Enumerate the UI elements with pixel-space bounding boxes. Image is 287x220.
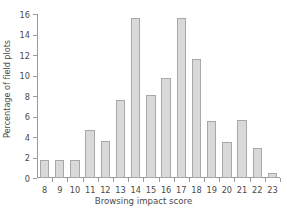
bar: [85, 130, 94, 178]
y-axis-tick-label: 10: [20, 71, 30, 81]
bar: [237, 120, 246, 178]
y-axis-label-text: Percentage of field plots: [2, 40, 12, 138]
y-axis-tick-label: 0: [25, 174, 30, 184]
bar: [222, 142, 231, 178]
x-axis-tick: [52, 178, 53, 182]
x-axis-tick-label: 12: [100, 185, 110, 195]
x-axis-label: Browsing impact score: [0, 196, 287, 206]
x-axis-tick-label: 9: [57, 185, 62, 195]
x-axis-tick-label: 14: [131, 185, 141, 195]
x-axis-tick-label: 21: [237, 185, 247, 195]
y-axis-tick: 8: [33, 96, 37, 97]
x-axis-tick: [113, 178, 114, 182]
y-axis-tick-label: 8: [25, 92, 30, 102]
y-axis-tick-label: 16: [20, 10, 30, 20]
y-axis-tick-label: 2: [25, 153, 30, 163]
y-axis-tick: 16: [33, 14, 37, 15]
x-axis-tick-label: 16: [161, 185, 171, 195]
y-axis-tick: 10: [33, 76, 37, 77]
bar: [131, 18, 140, 178]
y-axis-tick-label: 14: [20, 30, 30, 40]
x-axis-tick: [67, 178, 68, 182]
y-axis-tick: 4: [33, 137, 37, 138]
x-axis-tick: [280, 178, 281, 182]
x-axis-tick-label: 11: [85, 185, 95, 195]
x-axis-tick-label: 19: [206, 185, 216, 195]
plot-area: 0246810121416 89101112131415161718192021…: [37, 14, 280, 178]
bar: [40, 160, 49, 178]
x-axis-tick: [234, 178, 235, 182]
y-axis-tick: 2: [33, 158, 37, 159]
x-axis-tick-label: 15: [146, 185, 156, 195]
bar: [116, 100, 125, 178]
x-axis-tick-label: 22: [252, 185, 262, 195]
bar: [253, 148, 262, 178]
x-axis-tick: [159, 178, 160, 182]
x-axis-tick: [189, 178, 190, 182]
x-axis-tick-label: 13: [115, 185, 125, 195]
x-axis-tick: [250, 178, 251, 182]
bar: [146, 95, 155, 178]
y-axis-tick: 14: [33, 35, 37, 36]
chart-figure: Percentage of field plots 0246810121416 …: [0, 0, 287, 220]
x-axis-tick: [174, 178, 175, 182]
bar: [207, 121, 216, 178]
x-axis-tick: [219, 178, 220, 182]
bar: [55, 160, 64, 178]
y-axis-label: Percentage of field plots: [0, 0, 14, 178]
x-axis-tick-label: 18: [191, 185, 201, 195]
x-axis-tick: [128, 178, 129, 182]
bar: [177, 18, 186, 178]
x-axis-tick-label: 8: [42, 185, 47, 195]
y-axis-tick-label: 6: [25, 112, 30, 122]
x-axis-tick-label: 10: [70, 185, 80, 195]
x-axis-tick: [98, 178, 99, 182]
bar: [192, 59, 201, 178]
y-axis-tick: 6: [33, 117, 37, 118]
x-axis-tick-label: 23: [267, 185, 277, 195]
y-axis-tick: 12: [33, 55, 37, 56]
x-axis-tick: [204, 178, 205, 182]
bar: [161, 78, 170, 178]
x-axis-tick-label: 17: [176, 185, 186, 195]
y-axis-line: [37, 14, 38, 178]
x-axis-tick-label: 20: [222, 185, 232, 195]
bar: [268, 173, 277, 178]
y-axis-tick-label: 12: [20, 51, 30, 61]
x-axis-tick: [265, 178, 266, 182]
bar: [101, 141, 110, 178]
y-axis-tick-label: 4: [25, 133, 30, 143]
y-axis-tick: 0: [33, 178, 37, 179]
x-axis-tick: [83, 178, 84, 182]
x-axis-tick: [143, 178, 144, 182]
bar: [70, 160, 79, 178]
